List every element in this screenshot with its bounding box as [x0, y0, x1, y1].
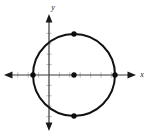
- point-right-intercept: [112, 72, 117, 77]
- coordinate-plane-svg: x y: [0, 0, 155, 138]
- point-bottom: [71, 113, 76, 118]
- point-top: [71, 31, 76, 36]
- point-center: [71, 72, 76, 77]
- figure-background: [0, 0, 155, 138]
- point-left-intercept: [30, 72, 35, 77]
- y-axis-label: y: [50, 3, 55, 12]
- circle-coordinate-figure: x y: [0, 0, 155, 138]
- x-axis-label: x: [139, 70, 144, 79]
